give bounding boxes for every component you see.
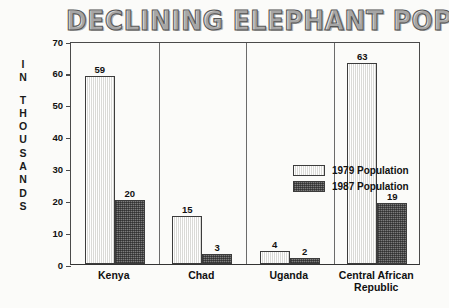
y-axis-tick-mark (66, 266, 71, 267)
y-axis-tick-mark (66, 202, 71, 203)
y-axis-tick-label: 30 (37, 164, 63, 175)
y-axis-tick-mark (66, 74, 71, 75)
bar-1979: 4 (260, 251, 290, 264)
y-axis-tick-mark (66, 170, 71, 171)
bar-1979: 15 (172, 216, 202, 264)
y-axis-title-gap (12, 85, 34, 94)
y-axis-tick-label: 20 (37, 196, 63, 207)
group-separator-line (159, 43, 160, 264)
chart-title: DECLINING ELEPHANT POPULATION (66, 6, 436, 36)
y-axis-tick-mark (66, 43, 71, 44)
group-separator-line (334, 43, 335, 264)
y-axis-title-letter: U (12, 133, 34, 146)
bar-1979: 59 (85, 76, 115, 264)
y-axis-title-letter: S (12, 147, 34, 160)
y-axis-tick-mark (66, 138, 71, 139)
legend-swatch-y1979 (293, 165, 325, 176)
plot-area: 010203040506070 5920153426319 1979 Popul… (70, 42, 420, 265)
y-axis-title-letter: D (12, 187, 34, 200)
y-axis-tick-mark (66, 106, 71, 107)
y-axis-title-letter: H (12, 107, 34, 120)
bar-1987: 20 (115, 200, 145, 264)
y-axis-tick-label: 60 (37, 68, 63, 79)
y-axis-title-letter: A (12, 160, 34, 173)
legend-label: 1979 Population (332, 165, 409, 176)
bar-1987: 2 (290, 258, 320, 264)
bar-value-label: 2 (302, 246, 307, 257)
group-separator-line (246, 43, 247, 264)
y-axis-title-letter: I (12, 58, 34, 71)
y-axis-tick-label: 70 (37, 37, 63, 48)
bar-value-label: 4 (272, 239, 277, 250)
legend-item: 1987 Population (293, 180, 409, 192)
legend-label: 1987 Population (332, 181, 409, 192)
x-axis-category-label: Central African Republic (333, 269, 421, 293)
y-axis-title-letter: T (12, 94, 34, 107)
x-axis-category-label: Kenya (70, 269, 158, 281)
bar-1987: 3 (202, 254, 232, 264)
bar-value-label: 63 (357, 51, 368, 62)
legend-item: 1979 Population (293, 164, 409, 176)
y-axis-title-letter: N (12, 173, 34, 186)
y-axis-tick-label: 40 (37, 132, 63, 143)
chart-legend: 1979 Population1987 Population (293, 164, 409, 196)
bar-value-label: 15 (182, 204, 193, 215)
x-axis-category-label: Chad (158, 269, 246, 281)
bar-1987: 19 (377, 203, 407, 264)
y-axis-tick-label: 50 (37, 100, 63, 111)
y-axis-title-letter: N (12, 71, 34, 84)
legend-swatch-y1987 (293, 181, 325, 192)
y-axis-title: INTHOUSANDS (12, 58, 34, 213)
x-axis-category-label: Uganda (245, 269, 333, 281)
y-axis-title-letter: S (12, 200, 34, 213)
bar-value-label: 3 (215, 242, 220, 253)
y-axis-tick-label: 0 (37, 260, 63, 271)
bar-value-label: 20 (124, 188, 135, 199)
y-axis-title-letter: O (12, 120, 34, 133)
y-axis-tick-mark (66, 234, 71, 235)
chart-canvas: DECLINING ELEPHANT POPULATION INTHOUSAND… (0, 0, 449, 308)
bar-value-label: 59 (94, 64, 105, 75)
y-axis-tick-label: 10 (37, 228, 63, 239)
